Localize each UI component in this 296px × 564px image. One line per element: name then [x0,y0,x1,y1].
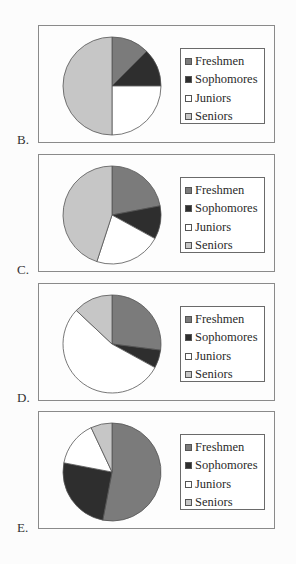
pie-slice-sophomores [63,463,112,520]
dark-square-icon [185,334,192,341]
option-label-c: C. [17,262,29,278]
pie-slice-seniors [63,37,112,135]
white-square-icon [185,95,192,102]
legend-item-seniors: Seniors [185,108,264,127]
pie-chart-c [62,165,162,265]
legend-item-seniors: Seniors [185,366,264,385]
medium-gray-square-icon [185,316,192,323]
pie-chart-d [62,294,162,394]
dark-square-icon [185,205,192,212]
legend-item-juniors: Juniors [185,89,264,108]
legend-item-juniors: Juniors [185,218,264,237]
legend-item-sophomores: Sophomores [185,329,264,348]
legend-item-sophomores: Sophomores [185,200,264,219]
medium-gray-square-icon [185,187,192,194]
pie-slice-juniors [112,86,161,135]
option-label-b: B. [17,132,29,148]
legend-item-sophomores: Sophomores [185,71,264,90]
white-square-icon [185,481,192,488]
legend-b: Freshmen Sophomores Juniors Seniors [180,48,265,124]
chart-panel-d: Freshmen Sophomores Juniors Seniors [38,283,275,401]
option-label-d: D. [17,390,30,406]
chart-panel-e: Freshmen Sophomores Juniors Seniors [38,411,275,529]
legend-c: Freshmen Sophomores Juniors Seniors [180,177,265,253]
legend-item-seniors: Seniors [185,237,264,256]
white-square-icon [185,353,192,360]
legend-item-juniors: Juniors [185,475,264,494]
legend-item-sophomores: Sophomores [185,457,264,476]
legend-item-seniors: Seniors [185,494,264,513]
legend-item-freshmen: Freshmen [185,52,264,71]
light-gray-square-icon [185,371,192,378]
dark-square-icon [185,76,192,83]
medium-gray-square-icon [185,444,192,451]
light-gray-square-icon [185,113,192,120]
pie-chart-e [62,422,162,522]
chart-panel-b: Freshmen Sophomores Juniors Seniors [38,25,275,143]
pie-slice-freshmen [112,295,161,350]
pie-chart-b [62,36,162,136]
medium-gray-square-icon [185,58,192,65]
legend-e: Freshmen Sophomores Juniors Seniors [180,434,265,510]
light-gray-square-icon [185,242,192,249]
legend-d: Freshmen Sophomores Juniors Seniors [180,306,265,382]
light-gray-square-icon [185,499,192,506]
legend-item-juniors: Juniors [185,347,264,366]
white-square-icon [185,224,192,231]
dark-square-icon [185,462,192,469]
legend-item-freshmen: Freshmen [185,181,264,200]
option-label-e: E. [17,520,28,536]
legend-item-freshmen: Freshmen [185,438,264,457]
chart-panel-c: Freshmen Sophomores Juniors Seniors [38,154,275,272]
legend-item-freshmen: Freshmen [185,310,264,329]
